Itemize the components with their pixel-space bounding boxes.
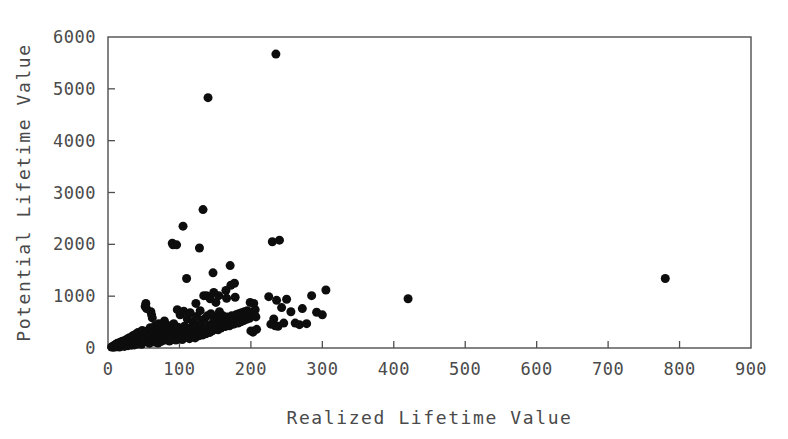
data-point bbox=[251, 312, 260, 321]
scatter-chart-figure: 0100200300400500600700800900010002000300… bbox=[0, 0, 788, 439]
data-point bbox=[661, 274, 670, 283]
data-point bbox=[226, 261, 235, 270]
y-axis-title: Potential Lifetime Value bbox=[13, 43, 34, 342]
data-point bbox=[231, 293, 240, 302]
data-point bbox=[298, 304, 307, 313]
data-point bbox=[307, 291, 316, 300]
data-point bbox=[302, 319, 311, 328]
data-point bbox=[277, 303, 286, 312]
data-point bbox=[204, 93, 213, 102]
data-point bbox=[182, 274, 191, 283]
data-point bbox=[172, 240, 181, 249]
x-tick-label: 100 bbox=[163, 359, 195, 379]
x-tick-label: 200 bbox=[235, 359, 267, 379]
data-point bbox=[195, 243, 204, 252]
x-axis: 0100200300400500600700800900 bbox=[103, 341, 767, 379]
data-point bbox=[271, 321, 280, 330]
data-point bbox=[286, 307, 295, 316]
y-tick-label: 1000 bbox=[53, 286, 96, 306]
data-points-group bbox=[107, 50, 670, 352]
data-point bbox=[179, 222, 188, 231]
y-tick-label: 6000 bbox=[53, 27, 96, 47]
data-point bbox=[209, 268, 218, 277]
x-tick-label: 600 bbox=[521, 359, 553, 379]
x-tick-label: 0 bbox=[103, 359, 114, 379]
y-tick-label: 5000 bbox=[53, 79, 96, 99]
y-axis: 0100020003000400050006000 bbox=[53, 27, 115, 358]
data-point bbox=[321, 285, 330, 294]
x-tick-label: 500 bbox=[449, 359, 481, 379]
y-tick-label: 3000 bbox=[53, 183, 96, 203]
x-tick-label: 700 bbox=[592, 359, 624, 379]
data-point bbox=[252, 325, 261, 334]
data-point bbox=[318, 310, 327, 319]
data-point bbox=[199, 205, 208, 214]
data-point bbox=[275, 236, 284, 245]
data-point bbox=[272, 296, 281, 305]
data-point bbox=[404, 294, 413, 303]
scatter-plot-svg: 0100200300400500600700800900010002000300… bbox=[0, 0, 788, 439]
data-point bbox=[222, 294, 231, 303]
plot-frame bbox=[108, 37, 751, 348]
x-tick-label: 900 bbox=[735, 359, 767, 379]
data-point bbox=[271, 50, 280, 59]
x-tick-label: 400 bbox=[378, 359, 410, 379]
x-axis-title: Realized Lifetime Value bbox=[286, 407, 572, 428]
y-tick-label: 2000 bbox=[53, 234, 96, 254]
data-point bbox=[230, 279, 239, 288]
y-tick-label: 0 bbox=[85, 338, 96, 358]
data-point bbox=[279, 319, 288, 328]
data-point bbox=[282, 295, 291, 304]
x-tick-label: 300 bbox=[306, 359, 338, 379]
data-point bbox=[264, 292, 273, 301]
x-tick-label: 800 bbox=[663, 359, 695, 379]
y-tick-label: 4000 bbox=[53, 131, 96, 151]
